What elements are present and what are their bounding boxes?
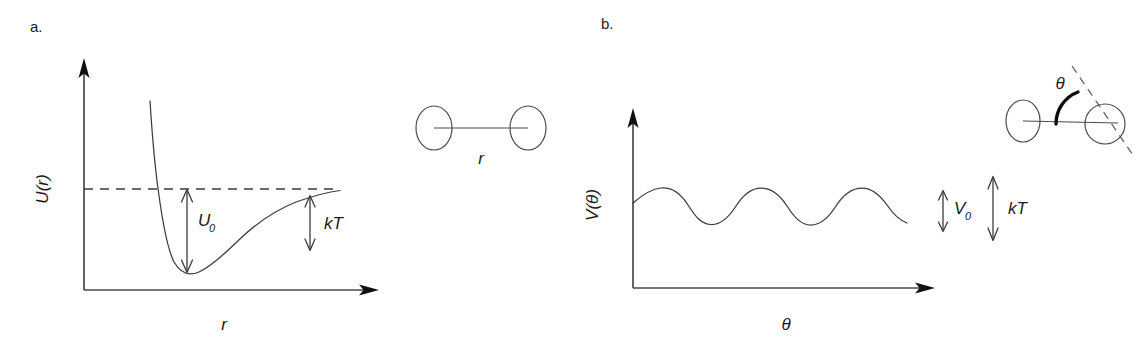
panel-b-letter: b. (601, 15, 614, 32)
panel-a-y-axis (79, 58, 90, 290)
panel-a-molecule-separation-label: r (478, 149, 485, 168)
panel-b-barrier-arrow (939, 191, 948, 232)
panel-b-x-axis (633, 283, 935, 294)
panel-b-molecule-angle-arc (1056, 92, 1078, 124)
panel-a-molecule-diagram: r (416, 106, 546, 168)
panel-a-well-depth-arrow (182, 190, 193, 273)
panel-a-letter: a. (30, 18, 43, 35)
panel-b-thermal-arrow (988, 177, 998, 241)
panel-a-well-depth-subscript: 0 (209, 222, 216, 234)
panel-a-y-axis-label: U(r) (33, 174, 52, 203)
panel-b-torsional-curve (633, 188, 907, 225)
panel-b-y-axis (628, 108, 639, 288)
panel-a-thermal-arrow (305, 196, 315, 251)
panel-a-x-axis-label: r (221, 315, 228, 334)
panel-a-x-axis (84, 285, 379, 296)
panel-b-molecule-diagram: θ (1006, 66, 1135, 158)
panel-b-group: b. V(θ) θ V (583, 15, 1135, 334)
panel-b-barrier-label: V 0 (954, 199, 972, 222)
panel-b-x-axis-label: θ (781, 315, 791, 334)
panel-b-molecule-bond (1023, 121, 1118, 123)
panel-a-thermal-label: kT (324, 214, 345, 233)
panel-b-y-axis-label: V(θ) (583, 189, 602, 221)
panel-a-group: a. U(r) r (30, 18, 546, 334)
panel-b-molecule-atom-right (1085, 104, 1125, 144)
figure-root: a. U(r) r (0, 0, 1144, 346)
panel-a-well-depth-label: U 0 (198, 211, 216, 234)
panel-b-thermal-label: kT (1008, 199, 1029, 218)
figure-canvas: a. U(r) r (0, 0, 1144, 346)
panel-b-barrier-subscript: 0 (965, 210, 972, 222)
panel-b-molecule-angle-label: θ (1055, 74, 1065, 93)
